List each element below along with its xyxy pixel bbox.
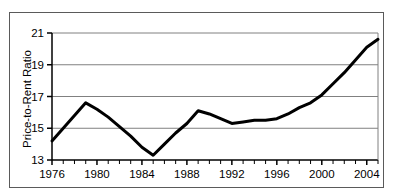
- y-tick-label: 19: [31, 59, 44, 71]
- x-tick-label: 1992: [219, 168, 245, 180]
- x-tick-label: 2004: [354, 168, 380, 180]
- y-axis-tick-labels: 1315171921: [31, 27, 44, 166]
- gridlines: [52, 33, 378, 128]
- x-tick-label: 1996: [264, 168, 290, 180]
- x-tick-label: 1976: [39, 168, 65, 180]
- x-tick-label: 1988: [174, 168, 200, 180]
- x-tick-label: 1980: [84, 168, 110, 180]
- x-axis-ticks: [47, 33, 378, 165]
- y-tick-label: 13: [31, 154, 44, 166]
- y-tick-label: 17: [31, 91, 44, 103]
- y-tick-label: 15: [31, 122, 44, 134]
- data-series-line: [52, 39, 378, 155]
- chart-figure: 1315171921 19761980198419881992199620002…: [0, 0, 395, 195]
- x-tick-label: 1984: [129, 168, 155, 180]
- price-to-rent-line-chart: 1315171921 19761980198419881992199620002…: [0, 0, 395, 195]
- y-tick-label: 21: [31, 27, 44, 39]
- x-tick-label: 2000: [309, 168, 335, 180]
- x-axis-tick-labels: 19761980198419881992199620002004: [39, 168, 380, 180]
- y-axis-label: Price-to-Rent Ratio: [21, 50, 33, 148]
